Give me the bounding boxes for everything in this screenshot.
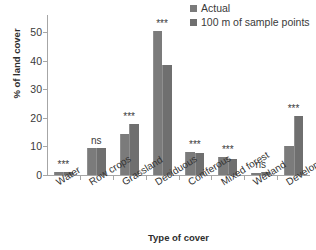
bar-pair — [86, 18, 106, 175]
bar-pair — [284, 18, 304, 175]
bar-pair — [185, 18, 205, 175]
y-axis-line — [47, 15, 48, 176]
y-tick-mark — [43, 32, 47, 33]
x-axis-tick-labels: WaterRow cropsGrasslandDeciduousConifero… — [47, 178, 310, 228]
y-axis-title: % of land cover — [11, 4, 22, 124]
significance-label: ns — [86, 136, 106, 146]
bar — [284, 146, 293, 175]
y-tick-label: 0 — [22, 170, 42, 180]
bar — [87, 148, 96, 175]
significance-label: *** — [185, 140, 205, 150]
bar-group: ns — [86, 18, 106, 175]
legend-swatch-actual — [190, 5, 197, 12]
bar — [162, 65, 171, 175]
y-tick-label: 30 — [22, 84, 42, 94]
bar-pair — [152, 18, 172, 175]
bar-group: *** — [218, 18, 238, 175]
y-axis-tick-labels: 01020304050 — [22, 0, 42, 250]
y-tick-mark — [43, 118, 47, 119]
x-axis-title: Type of cover — [47, 232, 310, 243]
y-tick-mark — [43, 175, 47, 176]
y-tick-mark — [43, 61, 47, 62]
plot-area: ***ns************ns*** — [47, 18, 310, 176]
y-tick-label: 10 — [22, 141, 42, 151]
significance-label: *** — [119, 112, 139, 122]
bar-group: *** — [54, 18, 74, 175]
y-tick-label: 40 — [22, 56, 42, 66]
bar-group: *** — [185, 18, 205, 175]
bar-pair — [54, 18, 74, 175]
y-tick-mark — [43, 89, 47, 90]
y-tick-mark — [43, 146, 47, 147]
y-tick-label: 50 — [22, 27, 42, 37]
bar-pair — [119, 18, 139, 175]
bar-group: *** — [152, 18, 172, 175]
significance-label: *** — [152, 19, 172, 29]
bar-chart: Actual 100 m of sample points % of land … — [0, 0, 316, 250]
bar-group: *** — [284, 18, 304, 175]
significance-label: *** — [284, 104, 304, 114]
bar-group: *** — [119, 18, 139, 175]
legend-item-actual: Actual — [190, 2, 316, 15]
y-tick-label: 20 — [22, 113, 42, 123]
legend-label-actual: Actual — [201, 3, 230, 14]
